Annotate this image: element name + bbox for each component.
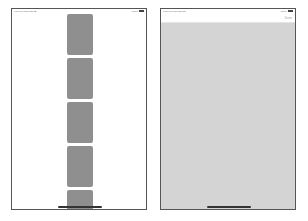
thumbnail-tile-1[interactable] <box>67 14 93 55</box>
status-battery: 100% <box>281 10 293 13</box>
status-time: 7:56 PM Thu Jan 28 <box>163 10 185 13</box>
right-ipad-screen: 7:56 PM Thu Jan 28 100% Done <box>160 8 296 210</box>
battery-icon <box>288 10 293 12</box>
status-battery: 100% <box>132 10 144 13</box>
status-time: 7:56 PM Thu Jan 28 <box>14 10 36 13</box>
content-area[interactable] <box>161 23 295 209</box>
thumbnail-tile-4[interactable] <box>67 146 93 187</box>
battery-icon <box>139 10 144 12</box>
home-indicator[interactable] <box>207 206 251 208</box>
left-ipad-screen: 7:56 PM Thu Jan 28 100% <box>11 8 147 210</box>
done-button[interactable]: Done <box>285 16 292 20</box>
thumbnail-tile-2[interactable] <box>67 58 93 99</box>
navigation-bar: Done <box>161 14 295 23</box>
home-indicator[interactable] <box>58 206 102 208</box>
thumbnail-tile-3[interactable] <box>67 102 93 143</box>
